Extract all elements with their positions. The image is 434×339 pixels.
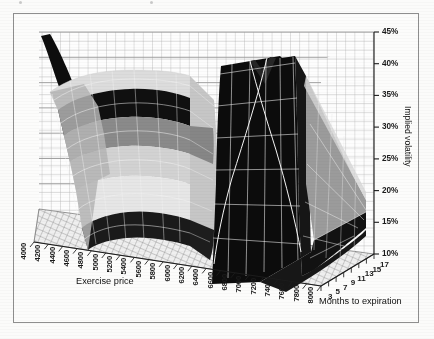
y-tick-label: 10% <box>382 250 398 258</box>
z-tick-label: 17 <box>380 261 389 269</box>
y-tick-label: 20% <box>382 187 398 195</box>
x-tick-label: 4400 <box>49 247 57 264</box>
x-axis-title: Exercise price <box>76 277 134 286</box>
x-tick-label: 6800 <box>221 273 229 290</box>
x-tick-label: 7600 <box>279 282 287 299</box>
y-tick-label: 45% <box>382 28 398 36</box>
x-tick-label: 5800 <box>150 262 158 279</box>
x-tick-label: 7800 <box>293 284 301 301</box>
x-tick-label: 6200 <box>178 267 186 284</box>
z-tick-label: 7 <box>343 284 347 292</box>
x-tick-label: 6600 <box>207 271 215 288</box>
x-tick-label: 8000 <box>307 287 315 304</box>
x-tick-label: 4200 <box>35 245 43 262</box>
surface-chart: 45% 40% 35% 30% 25% 20% 15% 10% Implied … <box>14 14 420 324</box>
z-axis-title: Months to expiration <box>319 297 402 306</box>
x-tick-label: 4000 <box>20 243 28 260</box>
x-tick-label: 5000 <box>92 254 100 271</box>
x-tick-label: 6000 <box>164 265 172 282</box>
surface-trough <box>190 76 217 260</box>
x-tick-label: 5200 <box>107 256 115 273</box>
y-tick-label: 35% <box>382 91 398 99</box>
x-tick-label: 6400 <box>193 269 201 286</box>
z-tick-label: 9 <box>351 279 355 287</box>
y-tick-label: 40% <box>382 60 398 68</box>
x-tick-label: 5400 <box>121 258 129 275</box>
scan-artifact <box>150 1 153 4</box>
y-tick-label: 25% <box>382 155 398 163</box>
scan-artifact <box>19 1 22 4</box>
page-canvas: 45% 40% 35% 30% 25% 20% 15% 10% Implied … <box>0 0 434 339</box>
x-tick-label: 7400 <box>264 280 272 297</box>
x-tick-label: 4600 <box>63 249 71 266</box>
x-tick-label: 4800 <box>78 251 86 268</box>
y-tick-label: 15% <box>382 218 398 226</box>
y-axis-ticks <box>374 32 379 254</box>
y-tick-label: 30% <box>382 123 398 131</box>
x-tick-label: 7000 <box>236 276 244 293</box>
surface-ridge <box>212 56 311 284</box>
x-tick-label: 5600 <box>135 260 143 277</box>
x-tick-label: 7200 <box>250 278 258 295</box>
figure-frame: 45% 40% 35% 30% 25% 20% 15% 10% Implied … <box>13 13 419 323</box>
y-axis-title: Implied volatility <box>403 106 412 167</box>
